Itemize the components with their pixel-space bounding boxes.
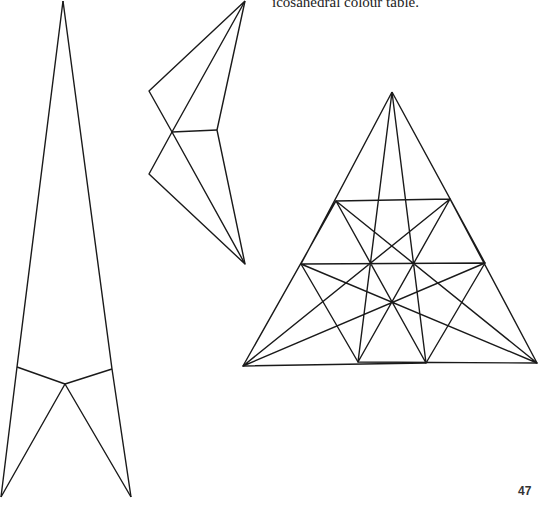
net-edge <box>17 367 112 384</box>
geometric-figures <box>0 0 539 505</box>
star-shaded-spikes <box>243 92 537 366</box>
tall-net-diagram <box>1 1 131 497</box>
net-edge <box>1 1 63 497</box>
kite-edge <box>172 130 217 132</box>
net-edge <box>63 1 131 497</box>
nine-point-star-diagram <box>243 92 537 366</box>
folded-kite-diagram <box>149 1 245 264</box>
page-number: 47 <box>518 484 531 498</box>
net-edge <box>1 384 131 497</box>
star-inner-region <box>243 92 537 366</box>
kite-edge <box>217 1 245 264</box>
